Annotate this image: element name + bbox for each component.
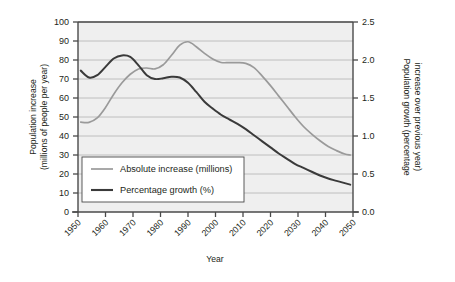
y-axis-left-tick-label: 30 — [59, 150, 69, 160]
y-axis-left-tick-label: 10 — [59, 188, 69, 198]
y-axis-right-tick-label: 1.0 — [362, 131, 375, 141]
y-axis-left-tick-label: 60 — [59, 93, 69, 103]
y-axis-left-tick-label: 70 — [59, 74, 69, 84]
y-axis-right-title-line1: Population growth (percentage — [402, 58, 412, 175]
y-axis-left-tick-label: 100 — [54, 17, 69, 27]
x-axis-tick-label: 2040 — [309, 217, 330, 238]
x-axis-tick-label: 1980 — [144, 217, 165, 238]
x-axis-tick-label: 1960 — [89, 217, 110, 238]
x-axis-tick-label: 2000 — [199, 217, 220, 238]
y-axis-right-tick-labels: 0.00.51.01.52.02.5 — [362, 17, 375, 217]
x-axis-tick-label: 2020 — [254, 217, 275, 238]
y-axis-left-tick-label: 40 — [59, 131, 69, 141]
legend-label-percentage-growth: Percentage growth (%) — [120, 185, 214, 195]
y-axis-left-tick-label: 20 — [59, 169, 69, 179]
x-axis-tick-label: 2030 — [282, 217, 303, 238]
y-axis-left-title-line2: (millions of people per year) — [39, 64, 49, 170]
y-axis-left-tick-label: 80 — [59, 55, 69, 65]
chart-figure: 0102030405060708090100 0.00.51.01.52.02.… — [0, 0, 455, 282]
x-axis-tick-label: 2050 — [337, 217, 358, 238]
x-axis-tick-labels: 1950196019701980199020002010202020302040… — [62, 217, 358, 238]
x-axis-title: Year — [206, 254, 224, 264]
legend-label-absolute-increase: Absolute increase (millions) — [120, 164, 232, 174]
y-axis-right-tick-label: 2.5 — [362, 17, 375, 27]
y-axis-right-tick-label: 1.5 — [362, 93, 375, 103]
x-axis-tick-label: 1950 — [62, 217, 83, 238]
x-axis-tick-label: 2010 — [227, 217, 248, 238]
y-axis-left-tick-label: 90 — [59, 36, 69, 46]
y-axis-right-tick-label: 2.0 — [362, 55, 375, 65]
chart-legend: Absolute increase (millions) Percentage … — [82, 157, 244, 202]
x-axis-tick-label: 1990 — [172, 217, 193, 238]
y-axis-left-title-line1: Population increase — [28, 79, 38, 155]
y-axis-left-tick-label: 0 — [64, 207, 69, 217]
population-growth-line-chart: 0102030405060708090100 0.00.51.01.52.02.… — [0, 0, 455, 282]
y-axis-left-tick-labels: 0102030405060708090100 — [54, 17, 69, 217]
y-axis-left-title: Population increase (millions of people … — [28, 64, 49, 170]
y-axis-right-title: Population growth (percentage increase o… — [402, 58, 423, 175]
y-axis-right-tick-label: 0.0 — [362, 207, 375, 217]
y-axis-right-title-line2: increase over previous year) — [413, 63, 423, 172]
y-axis-right-tick-label: 0.5 — [362, 169, 375, 179]
y-axis-left-tick-label: 50 — [59, 112, 69, 122]
x-axis-tick-label: 1970 — [117, 217, 138, 238]
